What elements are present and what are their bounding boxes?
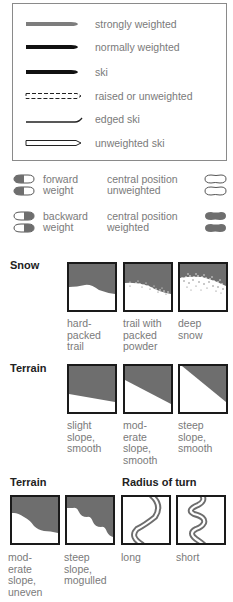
ski-icon xyxy=(25,65,79,79)
central-weighted-label: central position weighted xyxy=(107,211,178,233)
ski-normally-weighted-icon xyxy=(25,40,79,54)
legend-box: strongly weighted normally weighted ski … xyxy=(12,3,227,161)
backward-weight-label: backward weight xyxy=(43,211,88,233)
legend-label: raised or unweighted xyxy=(95,89,192,103)
steep-slope-icon xyxy=(178,364,228,414)
legend-item-raised: raised or unweighted xyxy=(13,89,228,103)
legend-label: edged ski xyxy=(95,112,140,126)
legend-label: unweighted ski xyxy=(95,136,164,150)
legend-item-strongly-weighted: strongly weighted xyxy=(13,17,228,31)
snow-heading: Snow xyxy=(10,259,39,271)
terrain-caption: steep slope, smooth xyxy=(178,420,212,455)
terrain-caption: mod- erate slope, uneven xyxy=(8,552,42,598)
forward-weight-label: forward weight xyxy=(43,174,78,196)
legend-label: ski xyxy=(95,65,108,79)
terrain-caption: slight slope, smooth xyxy=(67,420,101,455)
hard-packed-trail-icon xyxy=(67,262,117,312)
moderate-uneven-slope-icon xyxy=(10,495,60,545)
legend-item-edged: edged ski xyxy=(13,112,228,126)
ski-unweighted-icon xyxy=(25,136,83,150)
steep-mogulled-slope-icon xyxy=(65,495,115,545)
ski-raised-icon xyxy=(25,89,83,103)
slight-slope-icon xyxy=(67,364,117,414)
legend-item-ski: ski xyxy=(13,65,228,79)
terrain-caption: steep slope, mogulled xyxy=(64,552,107,587)
terrain-heading: Terrain xyxy=(10,362,46,374)
forward-weight-icon xyxy=(12,174,36,202)
deep-snow-icon xyxy=(178,262,228,312)
central-weighted-icon xyxy=(203,211,229,239)
central-unweighted-label: central position unweighted xyxy=(107,174,178,196)
radius-heading: Radius of turn xyxy=(122,476,197,488)
legend-label: strongly weighted xyxy=(95,17,177,31)
ski-edged-icon xyxy=(25,112,83,126)
packed-powder-icon xyxy=(123,262,173,312)
snow-caption: hard- packed trail xyxy=(67,318,101,353)
terrain-caption: mod- erate slope, smooth xyxy=(123,420,157,466)
long-radius-turn-icon xyxy=(121,495,171,545)
central-unweighted-icon xyxy=(203,174,229,202)
snow-caption: deep snow xyxy=(178,318,203,341)
backward-weight-icon xyxy=(12,211,36,239)
legend-item-normally-weighted: normally weighted xyxy=(13,40,228,54)
radius-caption: short xyxy=(176,552,199,564)
snow-caption: trail with packed powder xyxy=(123,318,162,353)
radius-caption: long xyxy=(121,552,141,564)
legend-label: normally weighted xyxy=(95,40,180,54)
legend-item-unweighted: unweighted ski xyxy=(13,136,228,150)
moderate-slope-icon xyxy=(123,364,173,414)
ski-strongly-weighted-icon xyxy=(25,17,79,31)
terrain-heading: Terrain xyxy=(10,476,46,488)
short-radius-turn-icon xyxy=(176,495,226,545)
